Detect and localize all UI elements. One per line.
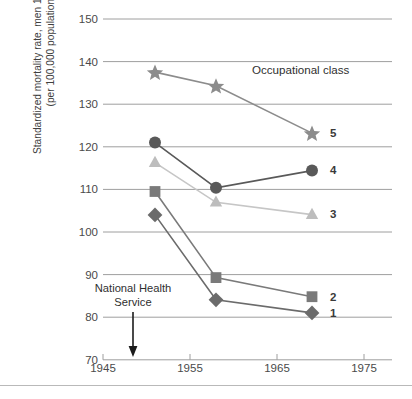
series-1-line [155, 215, 312, 313]
x-tick-1975: 1975 [339, 362, 389, 374]
marker-star [208, 78, 224, 93]
series-label-1: 1 [330, 307, 336, 319]
nhs-annotation-line1: National Health [95, 282, 172, 296]
series-label-2: 2 [330, 291, 336, 303]
x-axis-tick-labels: 1945 1955 1965 1975 [0, 362, 412, 382]
series-4-line [155, 143, 312, 188]
x-tick-1945: 1945 [78, 362, 128, 374]
marker-square [150, 186, 161, 197]
bottom-rule [0, 385, 412, 386]
series-label-4: 4 [330, 164, 336, 176]
marker-circle [149, 137, 161, 149]
marker-diamond [209, 292, 224, 307]
marker-square [307, 291, 318, 302]
x-axis [103, 354, 392, 360]
series-3-markers [149, 156, 318, 219]
x-tick-1965: 1965 [252, 362, 302, 374]
marker-triangle [210, 196, 222, 207]
marker-triangle [149, 156, 161, 167]
marker-circle [210, 182, 222, 194]
marker-star [147, 65, 163, 80]
marker-star [304, 126, 320, 141]
occupational-class-label: Occupational class [252, 63, 349, 76]
marker-diamond [305, 306, 320, 321]
nhs-arrow-icon [129, 312, 138, 357]
marker-square [211, 272, 222, 283]
plot-area [0, 0, 412, 399]
series-2-line [155, 192, 312, 297]
marker-diamond [148, 208, 163, 223]
nhs-annotation-line2: Service [95, 296, 172, 310]
x-tick-1955: 1955 [165, 362, 215, 374]
series-5-line [155, 72, 312, 133]
chart-figure: Standardized mortality rate, men 15–64 y… [0, 0, 412, 399]
series-label-3: 3 [330, 208, 336, 220]
nhs-annotation: National Health Service [95, 282, 172, 309]
marker-circle [306, 165, 318, 177]
series-3-line [155, 163, 312, 215]
series-1-markers [148, 208, 320, 321]
series-label-5: 5 [330, 127, 336, 139]
series-2-markers [150, 186, 318, 302]
